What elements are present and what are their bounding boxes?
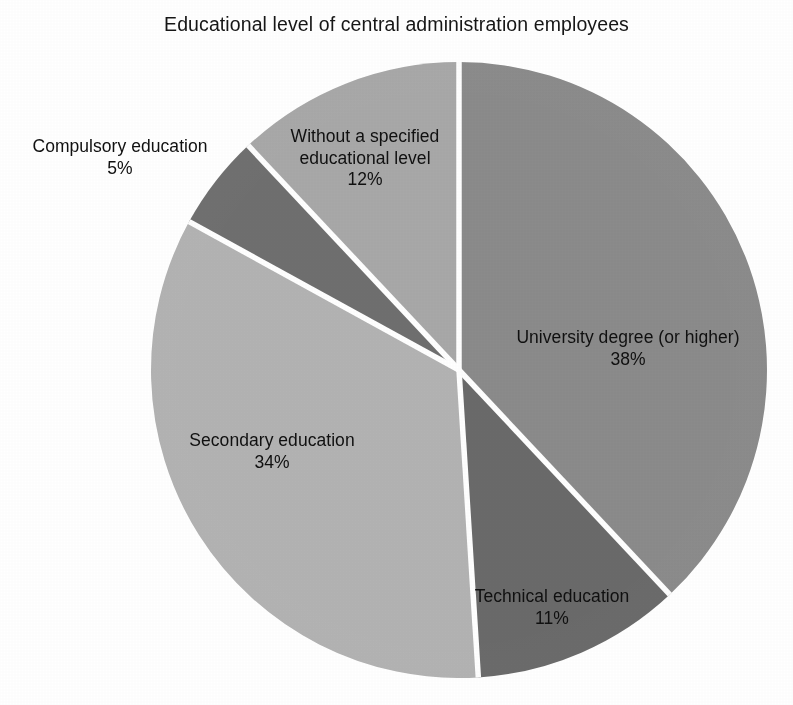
pie-label-unspecified-name-line2: educational level — [274, 148, 456, 170]
pie-chart-figure: Educational level of central administrat… — [0, 0, 793, 705]
pie-label-technical-name: Technical education — [443, 586, 661, 608]
pie-label-unspecified: Without a specified educational level 12… — [274, 126, 456, 191]
pie-label-secondary-name: Secondary education — [163, 430, 381, 452]
pie-label-technical-percent: 11% — [443, 608, 661, 630]
pie-label-secondary: Secondary education 34% — [163, 430, 381, 473]
pie-label-unspecified-name-line1: Without a specified — [274, 126, 456, 148]
pie-label-university-percent: 38% — [495, 349, 761, 371]
pie-label-unspecified-percent: 12% — [274, 169, 456, 191]
pie-label-compulsory: Compulsory education 5% — [6, 136, 234, 179]
pie-label-compulsory-name: Compulsory education — [6, 136, 234, 158]
pie-label-university: University degree (or higher) 38% — [495, 327, 761, 370]
pie-label-university-name: University degree (or higher) — [495, 327, 761, 349]
pie-label-technical: Technical education 11% — [443, 586, 661, 629]
pie-label-secondary-percent: 34% — [163, 452, 381, 474]
chart-title: Educational level of central administrat… — [0, 13, 793, 36]
pie-label-compulsory-percent: 5% — [6, 158, 234, 180]
